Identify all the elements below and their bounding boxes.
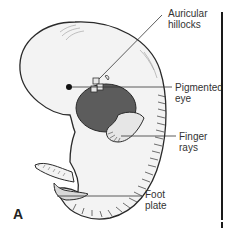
label-line: eye (175, 93, 223, 104)
embryo-illustration (0, 0, 225, 232)
panel-divider-tick (221, 222, 223, 228)
panel-divider (221, 12, 223, 220)
label-line: Finger (179, 131, 207, 142)
label-line: rays (179, 142, 207, 153)
tail-region (35, 163, 74, 182)
label-foot-plate: Foot plate (145, 189, 167, 211)
label-pigmented-eye: Pigmented eye (175, 82, 223, 104)
label-line: plate (145, 200, 167, 211)
label-line: hillocks (168, 19, 207, 30)
eye (66, 84, 72, 90)
label-line: Foot (145, 189, 167, 200)
label-auricular-hillocks: Auricular hillocks (168, 8, 207, 30)
embryo-diagram: Auricular hillocks Pigmented eye Finger … (0, 0, 225, 232)
label-line: Pigmented (175, 82, 223, 93)
label-finger-rays: Finger rays (179, 131, 207, 153)
panel-letter: A (13, 206, 23, 222)
label-line: Auricular (168, 8, 207, 19)
